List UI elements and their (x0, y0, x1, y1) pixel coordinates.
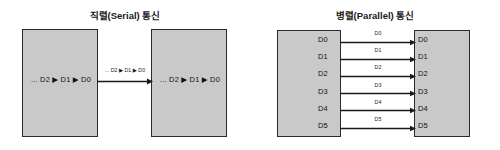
parallel-sender-lane-label: D0 (318, 35, 338, 44)
parallel-section-title: 병렬(Parallel) 통신 (250, 8, 500, 22)
parallel-wire-data-label: D1 (341, 47, 415, 53)
parallel-transmission-arrow-icon (340, 90, 416, 97)
diagram-canvas: 직렬(Serial) 통신 ... D2 ▶ D1 ▶ D0 ... D2 ▶ … (0, 0, 500, 150)
parallel-sender-lane-label: D5 (318, 121, 338, 130)
parallel-wire-data-label: D3 (341, 82, 415, 88)
parallel-receiver-lane-label: D4 (418, 104, 438, 113)
parallel-transmission-arrow-icon (340, 56, 416, 63)
parallel-sender-lane-label: D1 (318, 52, 338, 61)
parallel-wire-data-label: D4 (341, 99, 415, 105)
serial-wire-data-label: ... D2 ▶ D1 ▶ D0 (96, 67, 154, 73)
serial-sender-data-stream: ... D2 ▶ D1 ▶ D0 (24, 75, 98, 84)
parallel-receiver-lane-label: D1 (418, 52, 438, 61)
parallel-transmission-arrow-icon (340, 107, 416, 114)
parallel-wire-data-label: D0 (341, 30, 415, 36)
parallel-transmission-arrow-icon (340, 125, 416, 132)
parallel-receiver-lane-label: D2 (418, 69, 438, 78)
parallel-wire-data-label: D5 (341, 116, 415, 122)
serial-transmission-arrow-icon (97, 78, 153, 85)
serial-section-title: 직렬(Serial) 통신 (0, 8, 250, 22)
parallel-receiver-lane-label: D0 (418, 35, 438, 44)
parallel-sender-lane-label: D4 (318, 104, 338, 113)
parallel-sender-lane-label: D2 (318, 69, 338, 78)
parallel-transmission-arrow-icon (340, 39, 416, 46)
parallel-transmission-arrow-icon (340, 73, 416, 80)
parallel-receiver-lane-label: D5 (418, 121, 438, 130)
serial-receiver-data-stream: ... D2 ▶ D1 ▶ D0 (153, 75, 227, 84)
parallel-wire-data-label: D2 (341, 64, 415, 70)
parallel-receiver-lane-label: D3 (418, 87, 438, 96)
parallel-sender-lane-label: D3 (318, 87, 338, 96)
